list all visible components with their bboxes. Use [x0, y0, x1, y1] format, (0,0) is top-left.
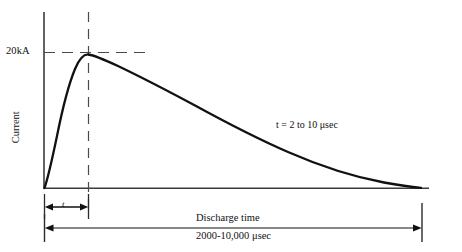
- rise-time-arrow-label: t: [62, 200, 65, 209]
- discharge-time-range-label: 2000-10,000 μsec: [196, 231, 271, 242]
- y-axis-title: Current: [11, 97, 22, 157]
- rise-time-annotation: t = 2 to 10 μsec: [276, 120, 338, 130]
- discharge-current-waveform-figure: 20kA Current t = 2 to 10 μsec t Discharg…: [0, 0, 462, 252]
- rise-time-arrow: [45, 194, 89, 219]
- current-waveform-curve: [45, 54, 422, 188]
- y-axis-peak-tick-label: 20kA: [6, 46, 30, 57]
- discharge-time-label: Discharge time: [196, 213, 260, 224]
